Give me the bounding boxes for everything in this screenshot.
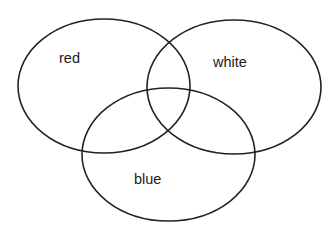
set-red-outline (18, 19, 190, 153)
set-white-label: white (212, 54, 247, 70)
set-red-label: red (59, 50, 80, 66)
set-white-outline (147, 20, 321, 154)
venn-diagram: red white blue (0, 0, 330, 237)
set-blue-label: blue (134, 171, 161, 187)
set-white: white (147, 20, 321, 154)
set-red: red (18, 19, 190, 153)
